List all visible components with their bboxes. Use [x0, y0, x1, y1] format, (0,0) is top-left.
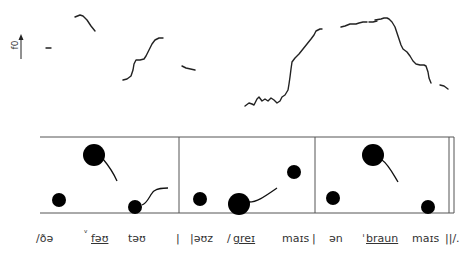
- transcription-token: maɪs: [412, 232, 439, 246]
- pitch-segment: [341, 22, 367, 27]
- transcription-token: greɪ: [233, 232, 255, 246]
- transcription-token: braun: [366, 232, 398, 246]
- pitch-segment: [369, 21, 377, 22]
- transcription-token: ᵛ: [84, 226, 88, 240]
- unstressed-syllable-dot: [326, 191, 340, 205]
- unstressed-syllable-dot: [421, 200, 435, 214]
- pitch-tail: [382, 160, 398, 182]
- transcription-token: ˈ: [362, 232, 365, 246]
- pitch-tail: [249, 188, 277, 202]
- pitch-segment: [245, 29, 322, 106]
- pitch-tail: [142, 188, 168, 205]
- transcription-token: fəʊ: [91, 232, 108, 246]
- unstressed-syllable-dot: [128, 200, 142, 214]
- intonation-diagram: [0, 0, 476, 257]
- unstressed-syllable-dot: [193, 192, 207, 206]
- transcription-token: /ðə: [36, 232, 53, 246]
- pitch-segment: [440, 85, 448, 89]
- unstressed-syllable-dot: [52, 193, 66, 207]
- unstressed-syllable-dot: [287, 165, 301, 179]
- transcription-token: ||/.: [445, 232, 460, 246]
- pitch-segment: [75, 15, 95, 31]
- pitch-tail: [103, 159, 117, 181]
- f0-axis-label: f0: [10, 41, 20, 50]
- transcription-token: |: [312, 232, 316, 246]
- pitch-segment: [182, 66, 195, 70]
- transcription-token: |: [176, 232, 180, 246]
- pitch-track: [46, 15, 448, 106]
- transcription-token: |əʊz: [190, 232, 213, 246]
- stressed-syllable-dot: [228, 193, 250, 215]
- stressed-syllable-dot: [362, 144, 384, 166]
- transcription-token: /: [227, 232, 231, 246]
- pitch-segment: [375, 18, 431, 83]
- stressed-syllable-dot: [83, 144, 105, 166]
- transcription-token: ən: [329, 232, 343, 246]
- transcription-token: maɪs: [282, 232, 309, 246]
- pitch-segment: [123, 38, 163, 80]
- stylization-dots: [52, 144, 435, 215]
- transcription-token: təʊ: [128, 232, 146, 246]
